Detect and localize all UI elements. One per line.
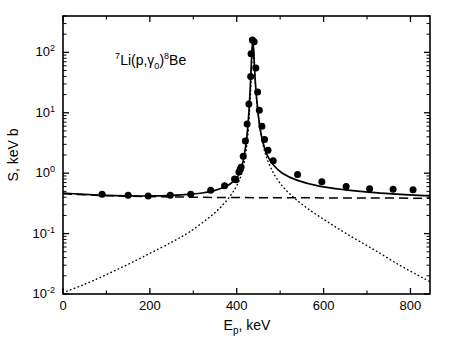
svg-text:600: 600: [313, 298, 335, 313]
svg-text:0: 0: [59, 298, 66, 313]
svg-text:800: 800: [400, 298, 422, 313]
svg-text:200: 200: [139, 298, 161, 313]
svg-text:S, keV b: S, keV b: [5, 128, 21, 181]
reaction-annotation: 7Li(p,γ0)8Be: [115, 51, 186, 71]
svg-text:7Li(p,γ0)8Be: 7Li(p,γ0)8Be: [115, 51, 186, 71]
figure-container: 0200400600800 10-210-1100101102 Ep, keV …: [0, 0, 454, 342]
svg-text:400: 400: [226, 298, 248, 313]
y-axis-title: S, keV b: [5, 128, 21, 181]
s-factor-plot: 0200400600800 10-210-1100101102 Ep, keV …: [0, 0, 454, 342]
plot-background: [0, 0, 454, 342]
